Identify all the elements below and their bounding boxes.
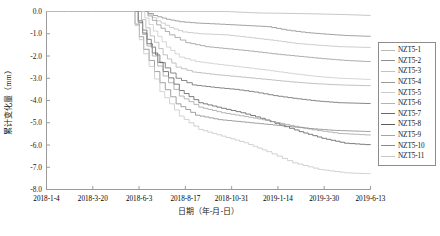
- legend-swatch-icon: [381, 113, 395, 114]
- legend-item-label: NZT5-2: [398, 57, 421, 65]
- legend-item-label: NZT5-11: [398, 152, 424, 160]
- legend-swatch-icon: [381, 135, 395, 136]
- x-tick-label: 2018-1-4: [33, 195, 60, 203]
- legend-item-label: NZT5-4: [398, 78, 421, 86]
- legend-item-nzt5-8[interactable]: NZT5-8: [379, 119, 435, 130]
- legend: NZT5-1NZT5-2NZT5-3NZT5-4NZT5-5NZT5-6NZT5…: [378, 42, 436, 166]
- legend-item-label: NZT5-5: [398, 89, 421, 97]
- legend-item-nzt5-1[interactable]: NZT5-1: [379, 45, 435, 56]
- legend-swatch-icon: [381, 145, 395, 146]
- legend-swatch-icon: [381, 103, 395, 104]
- legend-item-nzt5-9[interactable]: NZT5-9: [379, 130, 435, 141]
- series-line-nzt5-2: [47, 12, 371, 37]
- series-line-nzt5-8: [47, 12, 371, 146]
- y-tick-label: -8.0: [30, 185, 42, 194]
- legend-item-nzt5-2[interactable]: NZT5-2: [379, 56, 435, 67]
- series-line-nzt5-11: [47, 12, 371, 174]
- legend-item-nzt5-5[interactable]: NZT5-5: [379, 87, 435, 98]
- chart-canvas: 0.0-1.0-2.0-3.0-4.0-5.0-6.0-7.0-8.02018-…: [0, 0, 440, 236]
- legend-item-nzt5-11[interactable]: NZT5-11: [379, 151, 435, 162]
- legend-swatch-icon: [381, 60, 395, 61]
- legend-item-label: NZT5-6: [398, 99, 421, 107]
- legend-item-nzt5-3[interactable]: NZT5-3: [379, 66, 435, 77]
- y-tick-label: 0.0: [33, 7, 43, 16]
- y-axis-title: 累计变化量（mm）: [3, 66, 13, 134]
- x-tick-label: 2019-1-14: [263, 195, 293, 203]
- legend-item-label: NZT5-7: [398, 110, 421, 118]
- series-line-nzt5-6: [47, 12, 371, 86]
- legend-swatch-icon: [381, 82, 395, 83]
- legend-swatch-icon: [381, 156, 395, 157]
- series-line-nzt5-4: [47, 12, 371, 62]
- x-tick-label: 2019-3-30: [309, 195, 339, 203]
- legend-swatch-icon: [381, 124, 395, 125]
- x-tick-label: 2018-6-3: [126, 195, 153, 203]
- legend-item-label: NZT5-3: [398, 67, 421, 75]
- series-group: [47, 12, 371, 174]
- y-tick-label: -4.0: [30, 96, 42, 105]
- y-tick-label: -3.0: [30, 74, 42, 83]
- legend-item-nzt5-6[interactable]: NZT5-6: [379, 98, 435, 109]
- legend-item-nzt5-4[interactable]: NZT5-4: [379, 77, 435, 88]
- series-line-nzt5-7: [47, 12, 371, 104]
- legend-swatch-icon: [381, 50, 395, 51]
- y-tick-label: -5.0: [30, 118, 42, 127]
- accumulated-displacement-chart: 0.0-1.0-2.0-3.0-4.0-5.0-6.0-7.0-8.02018-…: [0, 0, 440, 236]
- x-axis-title: 日期（年-月-日）: [178, 206, 239, 216]
- y-tick-label: -1.0: [30, 29, 42, 38]
- y-tick-label: -2.0: [30, 52, 42, 61]
- legend-item-label: NZT5-9: [398, 131, 421, 139]
- legend-swatch-icon: [381, 92, 395, 93]
- axis-labels-group: 0.0-1.0-2.0-3.0-4.0-5.0-6.0-7.0-8.02018-…: [3, 7, 386, 215]
- series-line-nzt5-1: [47, 12, 371, 16]
- series-line-nzt5-3: [47, 12, 371, 48]
- y-tick-label: -6.0: [30, 141, 42, 150]
- x-tick-label: 2018-3-20: [78, 195, 108, 203]
- series-line-nzt5-10: [47, 12, 371, 132]
- legend-item-label: NZT5-1: [398, 46, 421, 54]
- x-tick-label: 2019-6-13: [356, 195, 386, 203]
- legend-item-label: NZT5-10: [398, 142, 424, 150]
- legend-item-nzt5-10[interactable]: NZT5-10: [379, 140, 435, 151]
- legend-item-nzt5-7[interactable]: NZT5-7: [379, 109, 435, 120]
- x-tick-label: 2018-10-31: [215, 195, 249, 203]
- y-tick-label: -7.0: [30, 163, 42, 172]
- axes-group: [47, 12, 371, 190]
- legend-item-label: NZT5-8: [398, 120, 421, 128]
- legend-swatch-icon: [381, 71, 395, 72]
- x-tick-label: 2018-8-17: [170, 195, 200, 203]
